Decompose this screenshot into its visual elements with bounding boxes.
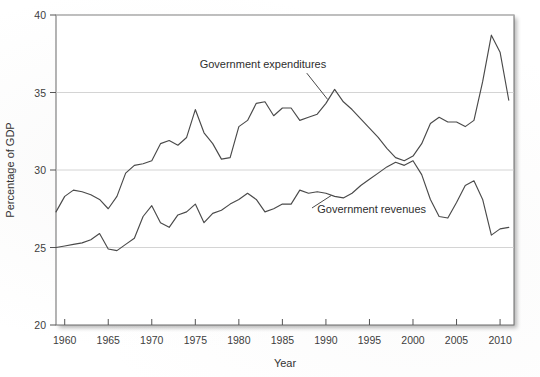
x-axis-title: Year (274, 357, 297, 369)
y-axis-ticks (50, 15, 56, 325)
x-tick-label: 1975 (184, 334, 208, 346)
chart-figure: 2025303540 19601965197019751980198519901… (0, 0, 540, 377)
revenues-series-label: Government revenues (317, 203, 426, 215)
line-chart: 2025303540 19601965197019751980198519901… (0, 0, 540, 377)
x-tick-label: 1985 (271, 334, 295, 346)
x-tick-label: 2005 (445, 334, 469, 346)
y-axis-title: Percentage of GDP (4, 122, 16, 217)
x-tick-label: 1970 (140, 334, 164, 346)
x-tick-label: 1995 (358, 334, 382, 346)
x-tick-label: 1960 (53, 334, 77, 346)
x-tick-label: 2000 (401, 334, 425, 346)
y-tick-label: 30 (34, 164, 46, 176)
y-tick-label: 20 (34, 319, 46, 331)
x-tick-label: 1980 (227, 334, 251, 346)
expenditures-series-label: Government expenditures (200, 58, 327, 70)
x-tick-label: 1990 (314, 334, 338, 346)
y-tick-label: 40 (34, 9, 46, 21)
y-tick-label: 35 (34, 87, 46, 99)
x-tick-label: 1965 (97, 334, 121, 346)
y-tick-label: 25 (34, 242, 46, 254)
x-axis-tick-labels: 1960196519701975198019851990199520002005… (53, 334, 512, 346)
x-tick-label: 2010 (488, 334, 512, 346)
y-axis-tick-labels: 2025303540 (34, 9, 46, 331)
